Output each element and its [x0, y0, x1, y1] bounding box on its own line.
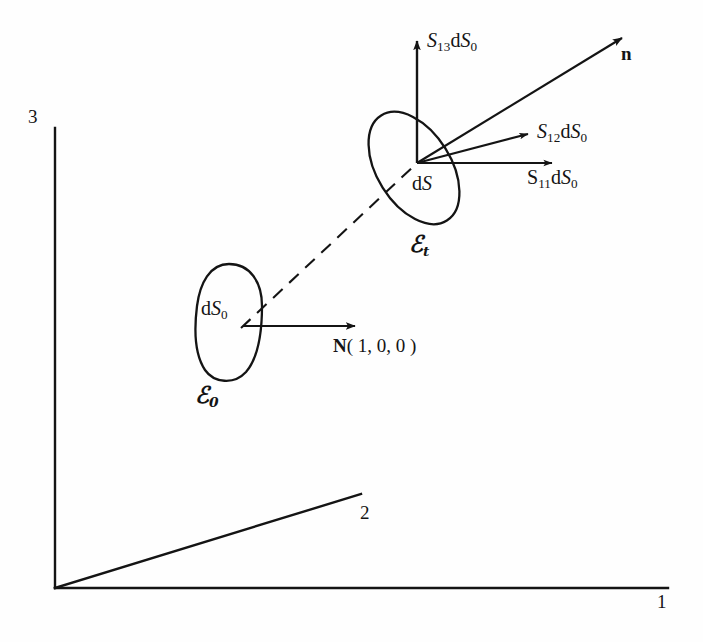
reference-area-symbol: S	[211, 297, 221, 319]
unit-normal-n-label: n	[621, 44, 632, 63]
s11-symbol: S	[527, 166, 538, 188]
s11-area-symbol: S	[561, 166, 571, 188]
s11-area-subscript: 0	[571, 176, 578, 191]
s12-arrow	[417, 134, 528, 163]
current-area-symbol: S	[422, 172, 432, 194]
axis-3-label: 3	[28, 107, 38, 126]
reference-surface-element	[196, 264, 262, 381]
s11-subscript: 11	[538, 176, 551, 191]
s13-subscript: 13	[437, 39, 450, 54]
current-region-label: ℰt	[409, 232, 429, 259]
normal-vector-components: ( 1, 0, 0 )	[347, 335, 417, 356]
traction-vectors	[417, 38, 622, 163]
reference-area-label: dS0	[201, 298, 228, 321]
s12-area-prefix: d	[560, 120, 570, 142]
s13-symbol: S	[427, 29, 437, 51]
s12-area-subscript: 0	[580, 130, 587, 145]
s12-label: S12dS0	[537, 121, 587, 144]
reference-region-subscript: 0	[209, 394, 219, 410]
s13-area-subscript: 0	[470, 39, 477, 54]
s13-area-prefix: d	[450, 29, 460, 51]
axis-1-label: 1	[657, 592, 667, 611]
reference-region-symbol: ℰ	[195, 381, 209, 408]
s13-label: S13dS0	[427, 30, 477, 53]
reference-area-prefix: d	[201, 297, 211, 319]
current-region-subscript: t	[423, 243, 429, 259]
unit-normal-n-arrow	[417, 38, 622, 163]
motion-connector-dashed	[241, 164, 416, 328]
s12-area-symbol: S	[570, 120, 580, 142]
s13-area-symbol: S	[460, 29, 470, 51]
current-area-label: dS	[412, 173, 432, 193]
current-region-symbol: ℰ	[409, 230, 423, 257]
axis-2-line	[55, 494, 361, 588]
s11-area-prefix: d	[551, 166, 561, 188]
s12-subscript: 12	[547, 130, 560, 145]
normal-vector-N-label: N( 1, 0, 0 )	[333, 336, 416, 355]
current-area-prefix: d	[412, 172, 422, 194]
axis-2-label: 2	[360, 503, 370, 522]
current-surface-element	[350, 96, 478, 240]
reference-region-label: ℰ0	[195, 383, 219, 410]
figure-root: 3 2 1 dS0 ℰ0 N( 1, 0, 0 ) dS ℰt n S13dS0…	[0, 0, 703, 642]
normal-vector-symbol: N	[333, 335, 347, 356]
diagram-canvas	[0, 0, 703, 642]
s11-label: S11dS0	[527, 167, 578, 190]
reference-area-subscript: 0	[221, 307, 228, 322]
s12-symbol: S	[537, 120, 547, 142]
